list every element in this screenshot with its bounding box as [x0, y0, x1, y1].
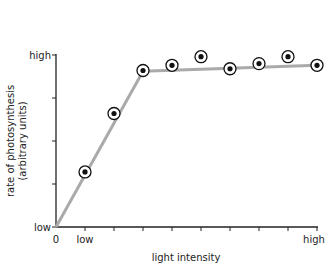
x-tick-origin: 0 [53, 234, 59, 245]
axes [52, 54, 318, 231]
x-tick-low: low [76, 234, 93, 245]
y-axis-label-line2: (arbitrary units) [17, 101, 28, 180]
data-point-marker [79, 166, 91, 178]
y-axis-label-line1: rate of photosynthesis [5, 85, 16, 197]
data-point-marker [282, 51, 294, 63]
data-point-marker [195, 51, 207, 63]
data-point-marker [253, 58, 265, 70]
x-tick-high: high [303, 234, 325, 245]
photosynthesis-chart: high low 0 low high light intensity rate… [0, 0, 327, 263]
x-axis-label: light intensity [152, 252, 221, 263]
data-point-marker [166, 59, 178, 71]
data-point-marker [311, 59, 323, 71]
y-tick-high: high [29, 50, 51, 61]
y-tick-low: low [34, 222, 51, 233]
data-point-marker [224, 63, 236, 75]
data-point-marker [137, 64, 149, 76]
data-point-marker [108, 107, 120, 119]
trend-line [56, 65, 317, 227]
